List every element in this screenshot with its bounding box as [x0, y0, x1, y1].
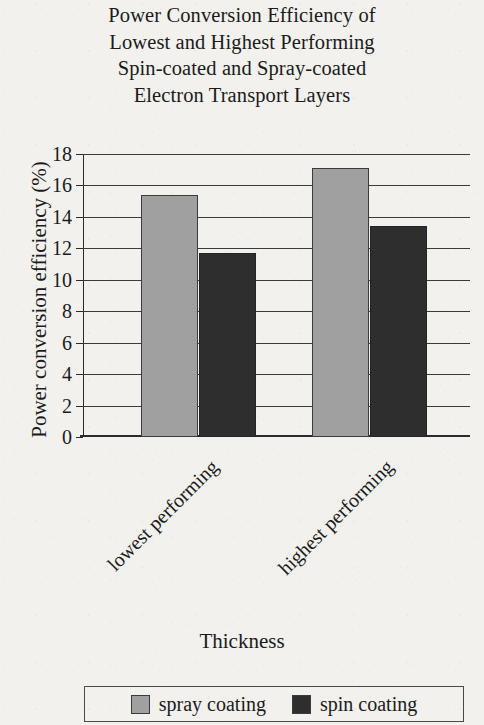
y-axis-tick — [76, 311, 83, 312]
chart-title-line-4: Electron Transport Layers — [40, 82, 444, 109]
y-axis-tick-label: 6 — [62, 333, 72, 353]
y-axis-tick — [76, 185, 83, 186]
x-axis-title: Thickness — [0, 629, 484, 654]
chart-title-line-1: Power Conversion Efficiency of — [40, 2, 444, 29]
y-axis-tick-label: 8 — [62, 301, 72, 321]
bar-chart: Power Conversion Efficiency of Lowest an… — [0, 0, 484, 725]
y-axis-tick-label: 2 — [62, 396, 72, 416]
chart-title: Power Conversion Efficiency of Lowest an… — [40, 2, 444, 108]
y-axis-tick-label: 10 — [52, 270, 72, 290]
legend-item-spin: spin coating — [292, 694, 417, 714]
y-axis-tick-label: 4 — [62, 364, 72, 384]
y-axis-tick — [76, 280, 83, 281]
legend-swatch-spin — [292, 695, 311, 714]
y-axis-line — [83, 154, 84, 437]
legend-label-spray: spray coating — [159, 694, 266, 714]
x-axis-label-lowest-performing: lowest performing — [0, 455, 223, 725]
bar-spray-coating-lowest-performing — [141, 195, 198, 437]
y-axis-tick-label: 14 — [52, 207, 72, 227]
y-axis-tick — [76, 343, 83, 344]
y-axis-tick — [76, 437, 83, 438]
y-axis-tick-label: 16 — [52, 175, 72, 195]
y-axis-tick — [76, 217, 83, 218]
y-axis-tick-label: 18 — [52, 144, 72, 164]
bar-spin-coating-lowest-performing — [199, 253, 256, 437]
y-axis-tick — [76, 154, 83, 155]
chart-title-line-2: Lowest and Highest Performing — [40, 29, 444, 56]
y-axis-title: Power conversion efficiency (%) — [27, 135, 52, 465]
grid-line — [83, 154, 470, 155]
chart-title-line-3: Spin-coated and Spray-coated — [40, 55, 444, 82]
y-axis-tick-label: 0 — [62, 427, 72, 447]
bar-spray-coating-highest-performing — [312, 168, 369, 437]
legend-swatch-spray — [131, 695, 150, 714]
legend-label-spin: spin coating — [320, 694, 417, 714]
plot-area: 181614121086420 — [83, 154, 470, 437]
y-axis-tick-label: 12 — [52, 238, 72, 258]
x-axis-label-highest-performing: highest performing — [99, 455, 398, 725]
grid-line — [83, 185, 470, 186]
y-axis-tick — [76, 406, 83, 407]
y-axis-tick — [76, 248, 83, 249]
legend-item-spray: spray coating — [131, 694, 266, 714]
chart-legend: spray coating spin coating — [84, 686, 464, 722]
bar-spin-coating-highest-performing — [370, 226, 427, 437]
y-axis-tick — [76, 374, 83, 375]
